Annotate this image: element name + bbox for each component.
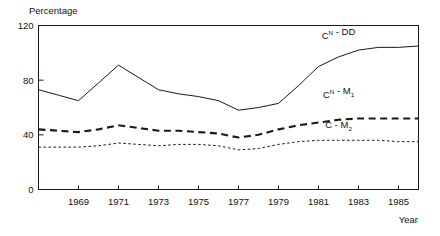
series-label-subscript: 1 [351, 91, 355, 98]
x-tick-label: 1969 [68, 196, 89, 207]
series-label-rest: - M [334, 85, 350, 96]
series-label: CN - DD [322, 26, 356, 41]
series-label-rest: - M [332, 119, 348, 130]
x-tick-label: 1985 [388, 196, 409, 207]
series-labels: CN - DDCN - M1C - M2 [322, 26, 356, 132]
y-tick-label: 120 [18, 20, 34, 31]
series-line [39, 140, 419, 150]
series-label: C - M2 [325, 119, 352, 132]
x-tick-label: 1975 [188, 196, 209, 207]
y-tick-label: 40 [23, 129, 34, 140]
line-chart: Percentage Year 04080120 196919711973197… [0, 0, 440, 236]
chart-svg: Percentage Year 04080120 196919711973197… [0, 0, 440, 236]
x-axis-title: Year [399, 214, 418, 225]
y-axis-title: Percentage [29, 5, 78, 16]
y-tick-label: 0 [28, 184, 33, 195]
x-axis-ticks: 196919711973197519771979198119831985 [68, 186, 409, 207]
series-label: CN - M1 [323, 85, 355, 100]
series-line [39, 46, 419, 110]
series-line [39, 118, 419, 137]
x-tick-label: 1973 [148, 196, 169, 207]
y-axis-ticks: 04080120 [18, 20, 44, 195]
x-tick-label: 1971 [108, 196, 129, 207]
series-label-rest: - DD [333, 26, 355, 37]
x-tick-label: 1979 [268, 196, 289, 207]
series-lines [39, 46, 419, 150]
x-tick-label: 1983 [348, 196, 369, 207]
series-label-subscript: 2 [348, 125, 352, 132]
x-tick-label: 1981 [308, 196, 329, 207]
y-tick-label: 80 [23, 75, 34, 86]
x-tick-label: 1977 [228, 196, 249, 207]
